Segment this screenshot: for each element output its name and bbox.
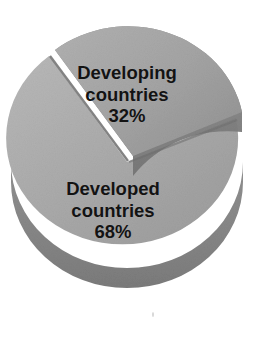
pie-label-developing-line2: countries	[47, 84, 207, 106]
pie-label-developing-line1: Developing	[47, 62, 207, 84]
pie-label-developing-value: 32%	[47, 105, 207, 127]
pie-chart-figure: Developing countries 32% Developed count…	[0, 0, 254, 339]
pie-label-developed-value: 68%	[33, 221, 193, 243]
pie-label-developed: Developed countries 68%	[33, 178, 193, 243]
pie-label-developed-line1: Developed	[33, 178, 193, 200]
pie-label-developing: Developing countries 32%	[47, 62, 207, 127]
scan-artifact-speck	[152, 312, 154, 317]
pie-chart-graphic	[0, 0, 254, 339]
pie-label-developed-line2: countries	[33, 200, 193, 222]
